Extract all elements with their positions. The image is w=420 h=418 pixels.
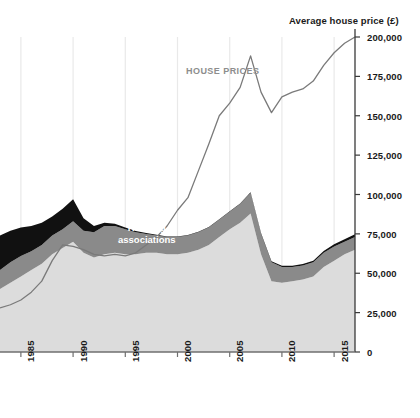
y-tick-label: 100,000 [367,189,402,200]
x-tick-label: 2010 [286,340,297,362]
x-tick-label: 2000 [182,340,193,362]
x-tick-label: 1995 [130,340,141,362]
chart-container: Average house price (£) 025,00050,00075,… [0,0,420,418]
x-tick-label: 2005 [234,340,245,362]
x-tick-label: 2015 [339,340,350,362]
y-tick-label: 0 [367,347,372,358]
y-tick-label: 200,000 [367,32,402,43]
y-tick-label: 75,000 [367,228,397,239]
y-tick-label: 50,000 [367,268,397,279]
y-axis-title: Average house price (£) [289,15,399,26]
y-tick-label: 175,000 [367,71,402,82]
x-tick-label: 1990 [78,340,89,362]
y-tick-label: 150,000 [367,110,402,121]
x-tick-label: 1985 [25,340,36,362]
y-tick-label: 25,000 [367,307,397,318]
chart-plot-area [0,0,420,418]
y-tick-label: 125,000 [367,150,402,161]
